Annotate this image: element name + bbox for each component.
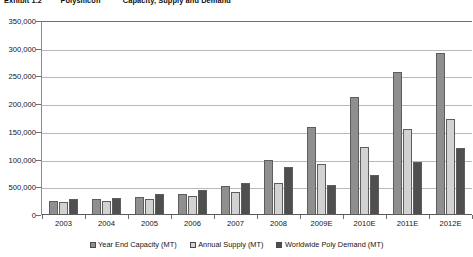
y-axis-tick-label: 0 xyxy=(0,211,36,220)
chart-title-exhibit: Exhibit 1.2 xyxy=(4,0,42,5)
legend-label: Year End Capacity (MT) xyxy=(98,240,177,249)
bar xyxy=(413,162,422,215)
bar xyxy=(370,175,379,215)
bar xyxy=(403,129,412,215)
x-axis-tick-label: 2004 xyxy=(85,219,128,228)
bar xyxy=(69,199,78,215)
y-axis-tick-mark xyxy=(36,215,41,216)
legend-swatch xyxy=(90,242,96,248)
chart-figure: Exhibit 1.2 Polysilicon Capacity, Supply… xyxy=(0,0,473,257)
y-axis-tick-label: 200,000 xyxy=(0,100,36,109)
legend-item: Year End Capacity (MT) xyxy=(90,240,177,249)
y-axis-tick-label: 300,000 xyxy=(0,44,36,53)
bar-group xyxy=(171,21,214,215)
x-axis-tick-label: 2012E xyxy=(429,219,472,228)
bar xyxy=(49,201,58,215)
bar-group xyxy=(257,21,300,215)
bar xyxy=(264,160,273,215)
x-axis-tick-label: 2003 xyxy=(42,219,85,228)
x-axis-tick-label: 2006 xyxy=(171,219,214,228)
bar-groups xyxy=(42,21,472,215)
chart-title-subject: Polysilicon xyxy=(60,0,100,5)
bar xyxy=(145,199,154,215)
x-axis-labels: 2003200420052006200720082009E2010E2011E2… xyxy=(42,219,472,228)
x-axis-tick-label: 2005 xyxy=(128,219,171,228)
bar-group xyxy=(300,21,343,215)
legend-label: Annual Supply (MT) xyxy=(198,240,263,249)
y-axis-tick-label: 350,000 xyxy=(0,17,36,26)
bar xyxy=(241,183,250,215)
bar xyxy=(231,192,240,215)
legend-item: Annual Supply (MT) xyxy=(190,240,264,249)
chart-title: Exhibit 1.2 Polysilicon Capacity, Supply… xyxy=(4,0,324,6)
y-axis-tick-label: 100,000 xyxy=(0,155,36,164)
bar xyxy=(446,119,455,215)
bar xyxy=(59,202,68,215)
bar xyxy=(436,53,445,215)
bar xyxy=(188,196,197,215)
x-axis-tick-label: 2009E xyxy=(300,219,343,228)
legend-swatch xyxy=(276,242,282,248)
bar xyxy=(221,186,230,215)
bar xyxy=(178,194,187,215)
bar xyxy=(274,183,283,215)
bar xyxy=(317,164,326,215)
y-axis-tick-label: 250,000 xyxy=(0,72,36,81)
bar xyxy=(393,72,402,215)
bar-group xyxy=(343,21,386,215)
bar xyxy=(350,97,359,215)
x-axis-tick-label: 2007 xyxy=(214,219,257,228)
bar-group xyxy=(128,21,171,215)
bar xyxy=(327,185,336,215)
chart-legend: Year End Capacity (MT)Annual Supply (MT)… xyxy=(0,240,473,249)
bar xyxy=(456,148,465,215)
legend-item: Worldwide Poly Demand (MT) xyxy=(276,240,383,249)
x-axis-tick-label: 2011E xyxy=(386,219,429,228)
x-axis-tick-label: 2008 xyxy=(257,219,300,228)
y-axis-tick-label: 150,000 xyxy=(0,127,36,136)
bar-group xyxy=(85,21,128,215)
bar xyxy=(155,194,164,215)
chart-title-descriptor: Capacity, Supply and Demand xyxy=(123,0,231,5)
bar xyxy=(112,198,121,215)
legend-swatch xyxy=(190,242,196,248)
bar-group xyxy=(429,21,472,215)
bar xyxy=(198,190,207,215)
bar xyxy=(135,197,144,215)
bar xyxy=(92,199,101,215)
bar xyxy=(102,201,111,215)
bar xyxy=(284,167,293,215)
bar-group xyxy=(214,21,257,215)
y-axis-tick-label: 500,000 xyxy=(0,183,36,192)
bar-group xyxy=(42,21,85,215)
legend-label: Worldwide Poly Demand (MT) xyxy=(285,240,383,249)
bar xyxy=(360,147,369,215)
x-axis-tick-label: 2010E xyxy=(343,219,386,228)
bar xyxy=(307,127,316,215)
bar-group xyxy=(386,21,429,215)
